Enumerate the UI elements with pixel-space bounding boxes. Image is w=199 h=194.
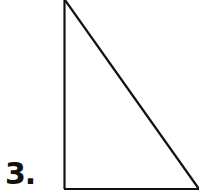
right-triangle-figure: [0, 0, 199, 194]
triangle-hypotenuse: [65, 0, 199, 189]
